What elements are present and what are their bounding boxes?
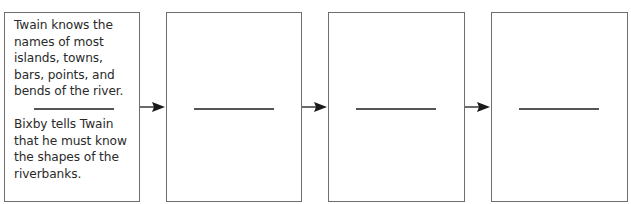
arrow-right-icon: [302, 101, 328, 113]
divider-line: [356, 108, 436, 110]
text-line: names of most: [14, 34, 135, 51]
text-line: islands, towns,: [14, 50, 135, 67]
sequence-box-3: [328, 12, 465, 202]
text-line: Bixby tells Twain: [14, 116, 135, 133]
text-line: the shapes of the: [14, 149, 135, 166]
arrow-right-icon: [465, 101, 491, 113]
divider-line: [519, 108, 599, 110]
box-1-bottom-text: Bixby tells Twain that he must know the …: [14, 116, 135, 182]
sequence-box-4: [491, 12, 628, 202]
divider-line: [194, 108, 274, 110]
sequence-box-1: Twain knows the names of most islands, t…: [4, 12, 140, 202]
text-line: Twain knows the: [14, 17, 135, 34]
text-line: riverbanks.: [14, 166, 135, 183]
arrow-right-icon: [140, 101, 166, 113]
sequence-box-2: [166, 12, 302, 202]
text-line: that he must know: [14, 133, 135, 150]
box-1-top-text: Twain knows the names of most islands, t…: [14, 17, 135, 100]
text-line: bends of the river.: [14, 83, 135, 100]
divider-line: [34, 108, 114, 110]
text-line: bars, points, and: [14, 67, 135, 84]
